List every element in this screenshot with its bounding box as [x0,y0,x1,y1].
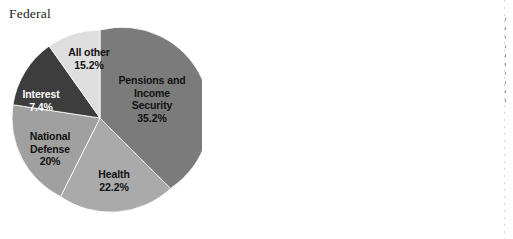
slice-label-federal-interest: Interest 7.4% [10,88,72,113]
slice-label-name-line1: National [14,130,86,143]
slice-label-federal-pensions-income-security: Pensions and Income Security 35.2% [113,74,191,124]
panel-federal: Federal All other 15.2% Interest 7.4% Na… [0,0,256,239]
slice-label-federal-national-defense: National Defense 20% [14,130,86,168]
scan-edge-artifact-upper [505,18,506,104]
slice-label-federal-health: Health 22.2% [86,168,142,193]
slice-label-name-line1: Pensions and [113,74,191,87]
slice-label-percent: 22.2% [86,181,142,194]
slice-label-name: All other [52,46,126,59]
slice-label-name: Interest [10,88,72,101]
slice-label-percent: 35.2% [113,112,191,125]
slice-label-name-line2: Defense [14,143,86,156]
slice-label-name-line2: Income [113,87,191,100]
slice-label-percent: 20% [14,155,86,168]
panel-state-and-local: State and Local All other 42.3% Educatio… [256,0,513,239]
slice-label-percent: 7.4% [10,101,72,114]
slice-label-name-line3: Security [113,99,191,112]
slice-label-percent: 15.2% [52,59,126,72]
pie-chart-figure: Federal All other 15.2% Interest 7.4% Na… [0,0,513,239]
chart-title-federal: Federal [9,6,51,22]
slice-label-federal-all-other: All other 15.2% [52,46,126,71]
slice-label-name: Health [86,168,142,181]
